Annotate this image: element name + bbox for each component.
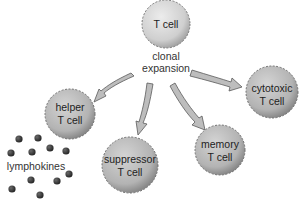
cell-label-line1: helper [55, 101, 85, 113]
memory-t-cell: memory T cell [195, 125, 245, 175]
lymphokine-dot [28, 148, 35, 155]
arrow-to-cytotoxic [190, 70, 242, 91]
source-t-cell: T cell [142, 0, 190, 48]
lymphokine-dot [62, 147, 69, 154]
arrow-to-suppressor [136, 83, 153, 135]
helper-t-cell: helper T cell [45, 89, 95, 139]
cell-body [102, 137, 158, 193]
cell-label-line2: T cell [208, 151, 233, 163]
lymphokines: lymphokines [7, 134, 73, 198]
cell-label-line2: T cell [118, 166, 143, 178]
cell-label-line1: cytotoxic [252, 82, 293, 94]
lymphokine-dot [36, 191, 43, 198]
arrow-to-memory [170, 83, 205, 130]
lymphokine-dot [34, 134, 41, 141]
lymphokine-dot [7, 149, 14, 156]
lymphokine-dot [27, 176, 34, 183]
lymphokine-dot [46, 144, 53, 151]
cell-label-line2: T cell [260, 95, 285, 107]
cell-label-line1: suppressor [104, 153, 156, 165]
lymphokine-dot [15, 135, 22, 142]
process-label-line2: expansion [142, 62, 190, 74]
cell-label-line2: T cell [58, 114, 83, 126]
clonal-expansion-label: clonal expansion [142, 50, 190, 74]
lymphokine-dot [53, 177, 60, 184]
process-label-line1: clonal [152, 50, 179, 62]
cell-label: T cell [154, 18, 179, 30]
lymphokine-dot [8, 185, 15, 192]
cytotoxic-t-cell: cytotoxic T cell [246, 66, 298, 118]
cell-label-line1: memory [201, 138, 240, 150]
lymphokines-label: lymphokines [7, 160, 65, 172]
lymphokine-dot [65, 170, 72, 177]
arrow-to-helper [94, 73, 134, 102]
suppressor-t-cell: suppressor T cell [102, 137, 158, 193]
t-cell-differentiation-diagram: T cell clonal expansion helper T cell su… [0, 0, 305, 210]
cell-body [195, 125, 245, 175]
